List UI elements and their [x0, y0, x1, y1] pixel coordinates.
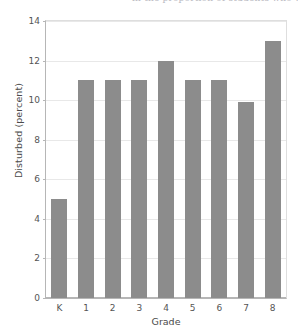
y-tick-label: 8 [34, 135, 40, 145]
bar [105, 80, 121, 298]
y-tick-mark [43, 100, 46, 101]
y-tick-mark [43, 179, 46, 180]
y-tick-label: 4 [34, 214, 40, 224]
truncated-caption: in the proportion of students who were d… [0, 0, 298, 9]
x-tick-label: 8 [270, 303, 276, 313]
y-tick-label: 12 [29, 56, 40, 66]
bar [131, 80, 147, 298]
y-axis-title: Disturbed (percent) [13, 51, 24, 211]
x-tick-label: 5 [190, 303, 196, 313]
bar [185, 80, 201, 298]
y-tick-label: 6 [34, 174, 40, 184]
x-tick-label: 3 [136, 303, 142, 313]
x-axis-title: Grade [45, 316, 287, 327]
caption-text: in the proportion of students who were d… [132, 0, 298, 3]
y-tick-label: 0 [34, 293, 40, 303]
bar [211, 80, 227, 298]
x-tick-label: 4 [163, 303, 169, 313]
gridline [46, 21, 286, 22]
x-tick-label: 1 [83, 303, 89, 313]
y-tick-mark [43, 61, 46, 62]
bar [51, 199, 67, 298]
bar [158, 61, 174, 298]
y-tick-mark [43, 140, 46, 141]
plot-area: 02468101214K12345678 [45, 20, 287, 299]
y-tick-mark [43, 298, 46, 299]
x-tick-label: 6 [216, 303, 222, 313]
bar-chart-figure: in the proportion of students who were d… [0, 0, 298, 334]
bar [78, 80, 94, 298]
x-tick-label: 7 [243, 303, 249, 313]
y-tick-mark [43, 21, 46, 22]
y-tick-label: 2 [34, 253, 40, 263]
x-tick-label: K [56, 303, 62, 313]
y-tick-mark [43, 258, 46, 259]
bar [238, 102, 254, 298]
y-tick-label: 14 [29, 16, 40, 26]
bar [265, 41, 281, 298]
y-tick-mark [43, 219, 46, 220]
y-tick-label: 10 [29, 95, 40, 105]
x-tick-label: 2 [110, 303, 116, 313]
